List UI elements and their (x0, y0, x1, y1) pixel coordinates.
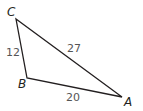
side-cb-length: 12 (6, 46, 20, 59)
vertex-b-label: B (18, 77, 26, 91)
triangle-abc (16, 19, 122, 97)
triangle-diagram: C B A 12 27 20 (0, 0, 143, 111)
side-ca-length: 27 (67, 42, 81, 55)
side-ba-length: 20 (66, 91, 80, 104)
vertex-c-label: C (7, 5, 16, 19)
vertex-a-label: A (123, 95, 132, 109)
